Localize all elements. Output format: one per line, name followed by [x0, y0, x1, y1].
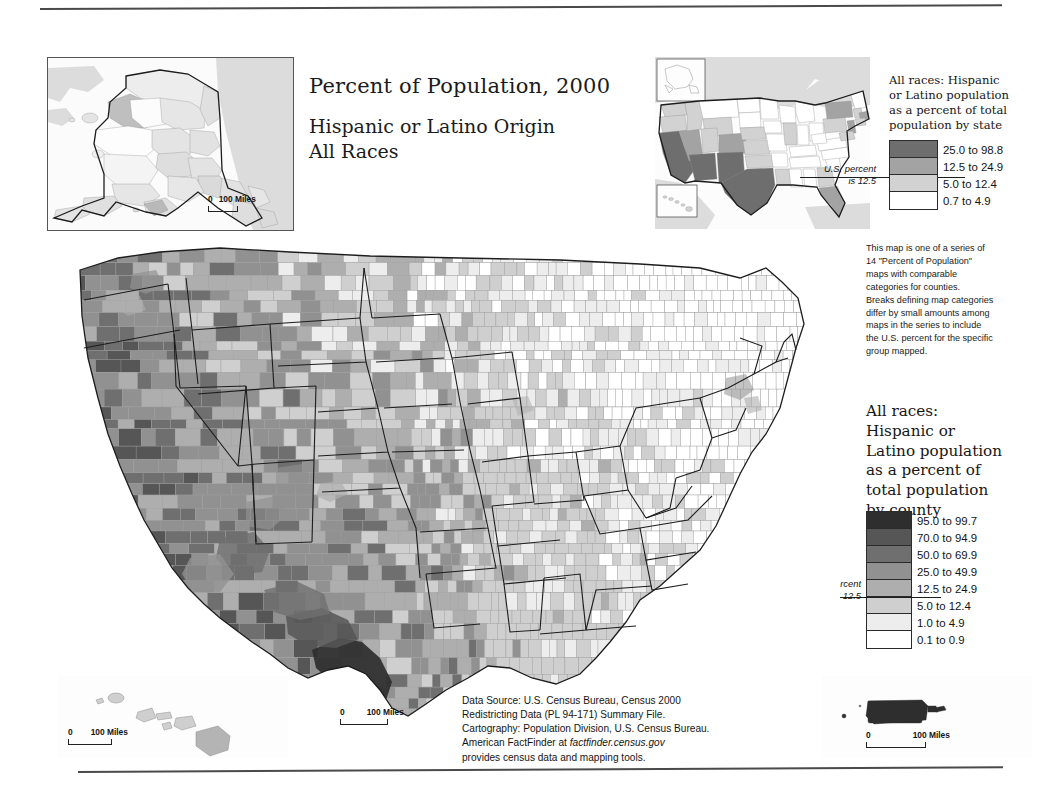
county-legend-swatch-6 — [867, 614, 911, 631]
county-legend-swatch-1 — [867, 529, 911, 546]
series-note-line-3: categories for counties. — [866, 281, 1036, 294]
source-note: Data Source: U.S. Census Bureau, Census … — [462, 694, 762, 765]
source-note-line4: American FactFinder at factfinder.census… — [462, 736, 762, 750]
alaska-svg — [48, 58, 293, 230]
county-legend-swatch-4 — [867, 580, 911, 597]
state-inset-map[interactable] — [655, 57, 870, 229]
series-note-line-5: differ by small amounts among — [866, 307, 1036, 320]
top-rule — [40, 4, 1002, 10]
map-subtitle-line2: All Races — [309, 139, 639, 164]
hawaii-inset-map[interactable]: 0 100 Miles — [58, 676, 288, 758]
hawaii-scale-label: 100 Miles — [91, 727, 128, 737]
alaska-scale-zero: 0 — [208, 194, 213, 204]
county-legend-title-line4: total population — [866, 481, 1036, 501]
county-legend-label-6: 1.0 to 4.9 — [917, 614, 965, 631]
county-legend-label-5: 5.0 to 12.4 — [917, 597, 971, 614]
hawaii-svg — [58, 676, 288, 758]
source-note-line2: Redistricting Data (PL 94-171) Summary F… — [462, 708, 762, 722]
county-legend-label-2: 50.0 to 69.9 — [917, 546, 977, 563]
county-legend-label-1: 70.0 to 94.9 — [917, 529, 977, 546]
bottom-rule — [78, 766, 1003, 773]
map-subtitle-line1: Hispanic or Latino Origin — [309, 114, 639, 139]
state-legend-swatch-2 — [890, 175, 937, 192]
county-legend-label-0: 95.0 to 99.7 — [917, 512, 977, 529]
map-page: 0 100 Miles Percent of Population, 2000 … — [0, 0, 1042, 797]
state-legend-swatch-0 — [890, 141, 937, 158]
county-legend-swatches — [866, 511, 912, 649]
county-legend-swatch-2 — [867, 546, 911, 563]
county-legend-label-3: 25.0 to 49.9 — [917, 563, 977, 580]
county-legend-swatch-7 — [867, 631, 911, 648]
puerto-rico-scalebar: 0 100 Miles — [866, 730, 950, 748]
source-note-line3: Cartography: Population Division, U.S. C… — [462, 722, 762, 736]
state-inset-svg — [655, 57, 870, 229]
puerto-rico-inset-map[interactable]: 0 100 Miles — [822, 676, 1032, 758]
series-note: This map is one of a series of 14 "Perce… — [866, 242, 1036, 358]
source-note-line1: Data Source: U.S. Census Bureau, Census … — [462, 694, 762, 708]
county-legend-title-line3: as a percent of — [866, 461, 1036, 481]
pr-scale-zero: 0 — [866, 730, 871, 740]
conus-scale-zero: 0 — [340, 707, 345, 717]
hawaii-scale-zero: 0 — [68, 727, 73, 737]
series-note-line-8: group mapped. — [866, 345, 1036, 358]
county-legend-swatch-0 — [867, 512, 911, 529]
title-block: Percent of Population, 2000 Hispanic or … — [309, 73, 639, 164]
source-note-line4-prefix: American FactFinder at — [462, 737, 570, 748]
county-legend-label-7: 0.1 to 0.9 — [917, 631, 965, 648]
series-note-line-7: the U.S. percent for the specific — [866, 332, 1036, 345]
state-legend-label-1: 12.5 to 24.9 — [943, 158, 1003, 175]
alaska-scalebar: 0 100 Miles — [208, 194, 256, 212]
series-note-line-6: maps in the series to include — [866, 319, 1036, 332]
map-title-main: Percent of Population, 2000 — [309, 73, 639, 99]
source-note-line5: provides census data and mapping tools. — [462, 751, 762, 765]
county-legend-label-4: 12.5 to 24.9 — [917, 580, 977, 597]
county-legend-title-line1: Hispanic or — [866, 422, 1036, 442]
state-legend-label-3: 0.7 to 4.9 — [943, 192, 991, 209]
state-legend-label-0: 25.0 to 98.8 — [943, 141, 1003, 158]
state-legend-swatch-3 — [890, 192, 937, 209]
state-legend-us-percent-line — [800, 177, 965, 178]
alaska-inset-map[interactable]: 0 100 Miles — [47, 57, 294, 231]
state-legend-swatch-1 — [890, 158, 937, 175]
source-note-factfinder-url: factfinder.census.gov — [570, 737, 665, 748]
county-legend-title-line0: All races: — [866, 402, 1036, 422]
pr-scale-label: 100 Miles — [913, 730, 950, 740]
county-legend-title-line2: Latino population — [866, 442, 1036, 462]
series-note-line-1: 14 "Percent of Population" — [866, 255, 1036, 268]
series-note-line-4: Breaks defining map categories — [866, 294, 1036, 307]
county-legend-swatch-5 — [867, 597, 911, 614]
state-legend-title-line4: population by state — [889, 118, 1039, 133]
series-note-line-0: This map is one of a series of — [866, 242, 1036, 255]
alaska-scale-label: 100 Miles — [219, 194, 256, 204]
hawaii-scalebar: 0 100 Miles — [68, 727, 128, 745]
series-note-line-2: maps with comparable — [866, 268, 1036, 281]
state-legend-swatches — [889, 140, 938, 210]
conus-scale-label: 100 Miles — [367, 707, 404, 717]
map-title-sub: Hispanic or Latino Origin All Races — [309, 114, 639, 164]
state-legend-title-line1: All races: Hispanic — [889, 73, 1039, 88]
state-legend-label-2: 5.0 to 12.4 — [943, 175, 997, 192]
state-legend-title: All races: Hispanic or Latino population… — [889, 73, 1039, 133]
state-legend-us-percent-line1: U.S. percent — [806, 163, 876, 175]
county-legend-swatch-3 — [867, 563, 911, 580]
state-legend-title-line2: or Latino population — [889, 88, 1039, 103]
state-legend-us-percent-note: U.S. percent is 12.5 — [806, 163, 876, 187]
county-legend-title: All races: Hispanic or Latino population… — [866, 402, 1036, 521]
state-legend-title-line3: as a percent of total — [889, 103, 1039, 118]
conus-scalebar: 0 100 Miles — [340, 707, 404, 725]
